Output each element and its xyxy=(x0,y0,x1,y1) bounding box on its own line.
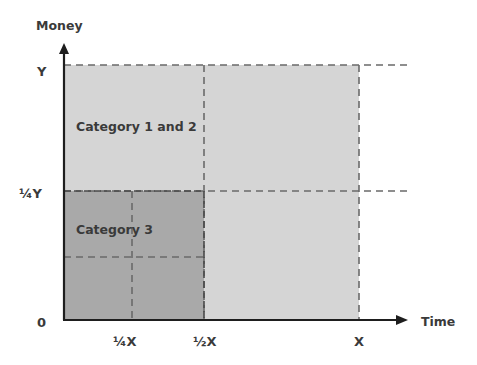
money-time-diagram: Money Time Y ¼Y 0 ¼X ½X X Category 1 and… xyxy=(0,0,477,365)
region-category-3 xyxy=(64,191,204,320)
x-tick-label-half-x: ½X xyxy=(193,334,216,349)
x-tick-label-quarter-x: ¼X xyxy=(113,334,136,349)
y-axis-arrow-icon xyxy=(59,43,69,54)
y-tick-label-y: Y xyxy=(36,64,47,79)
region-label-category-1-and-2: Category 1 and 2 xyxy=(76,119,197,134)
region-label-category-3: Category 3 xyxy=(76,222,153,237)
x-axis-arrow-icon xyxy=(396,315,408,325)
x-tick-label-x: X xyxy=(354,334,364,349)
x-axis-label: Time xyxy=(421,314,455,329)
y-tick-label-zero: 0 xyxy=(37,315,46,330)
y-axis-label: Money xyxy=(36,18,83,33)
y-tick-label-quarter-y: ¼Y xyxy=(19,186,42,201)
